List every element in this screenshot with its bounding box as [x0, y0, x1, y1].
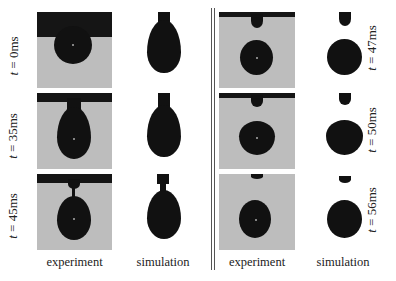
nozzle [339, 12, 351, 26]
drop-shape [147, 20, 181, 73]
nozzle [339, 93, 351, 105]
experiment-panel-0ms [37, 12, 112, 88]
drop-shape [327, 200, 362, 238]
time-symbol: t [6, 72, 21, 76]
time-label-56ms: t = 56ms [364, 187, 380, 233]
nozzle-residual [339, 176, 351, 183]
divider-line [214, 8, 215, 270]
drop-residual [251, 95, 263, 107]
time-value: = 45ms [5, 193, 20, 235]
time-symbol: t [364, 149, 379, 153]
drop-residual [251, 14, 263, 28]
time-symbol: t [5, 235, 20, 239]
time-value: = 56ms [364, 187, 379, 229]
drop-residual [251, 174, 263, 179]
simulation-panel-56ms [322, 174, 366, 250]
experiment-panel-50ms [219, 93, 295, 169]
time-symbol: t [364, 67, 379, 71]
experiment-panel-47ms [219, 12, 295, 88]
column-label-experiment-right: experiment [219, 255, 295, 270]
divider-line [211, 8, 212, 270]
simulation-panel-35ms [140, 93, 185, 169]
simulation-panel-47ms [322, 12, 366, 88]
time-label-47ms: t = 47ms [364, 25, 380, 71]
time-symbol: t [364, 229, 379, 233]
drop-shape [57, 107, 91, 159]
time-value: = 50ms [364, 107, 379, 149]
simulation-panel-50ms [322, 93, 366, 169]
column-label-simulation-right: simulation [310, 255, 376, 270]
time-label-0ms: t = 0ms [6, 36, 22, 75]
drop-shape [147, 105, 181, 157]
experiment-panel-45ms [37, 174, 112, 250]
experiment-panel-35ms [37, 93, 112, 169]
time-value: = 47ms [364, 25, 379, 67]
drop-shape [326, 120, 363, 155]
column-label-experiment-left: experiment [37, 255, 112, 270]
time-label-35ms: t = 35ms [5, 113, 21, 159]
simulation-panel-0ms [140, 12, 185, 88]
simulation-panel-45ms [140, 174, 185, 250]
time-symbol: t [5, 155, 20, 159]
drop-shape [147, 190, 181, 239]
time-label-45ms: t = 45ms [5, 193, 21, 239]
drop-shape [327, 39, 362, 75]
time-value: = 35ms [5, 113, 20, 155]
time-value: = 0ms [6, 36, 21, 72]
column-label-simulation-left: simulation [130, 255, 196, 270]
experiment-panel-56ms [219, 174, 295, 250]
time-label-50ms: t = 50ms [364, 107, 380, 153]
